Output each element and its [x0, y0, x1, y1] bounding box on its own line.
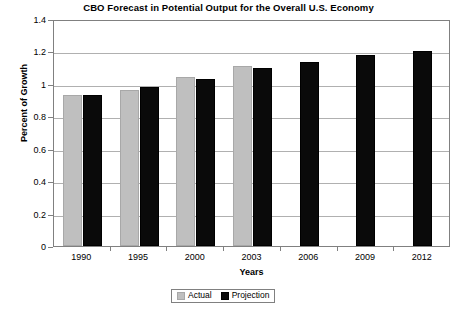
- y-axis-tick-label: 1.4: [6, 16, 46, 25]
- legend-label: Projection: [232, 291, 270, 300]
- y-axis-tick-label: 1.2: [6, 48, 46, 57]
- bar-actual-1995: [120, 90, 139, 246]
- y-axis-tick-label: 0.8: [6, 113, 46, 122]
- legend-swatch-icon: [177, 292, 185, 300]
- bar-projection-2003: [253, 68, 272, 246]
- x-axis-tick-label: 1990: [51, 252, 111, 262]
- bar-group: [111, 21, 168, 246]
- legend-entry-actual: Actual: [177, 291, 212, 300]
- bar-group: [167, 21, 224, 246]
- bar-projection-2006: [300, 62, 319, 246]
- bar-actual-1990: [63, 95, 82, 246]
- x-axis-tick-label: 2006: [278, 252, 338, 262]
- bar-actual-2000: [176, 77, 195, 246]
- y-axis-tick-mark: [48, 247, 53, 248]
- x-axis-tick-mark: [110, 247, 111, 251]
- plot-area: [53, 20, 450, 247]
- bar-group: [281, 21, 338, 246]
- x-axis-tick-mark: [337, 247, 338, 251]
- legend-label: Actual: [188, 291, 212, 300]
- y-axis-tick-label: 0.2: [6, 211, 46, 220]
- x-axis-tick-mark: [223, 247, 224, 251]
- x-axis-title: Years: [53, 267, 450, 277]
- bar-group: [224, 21, 281, 246]
- chart-title: CBO Forecast in Potential Output for the…: [0, 2, 457, 14]
- x-axis-tick-mark: [166, 247, 167, 251]
- legend-swatch-icon: [221, 292, 229, 300]
- x-axis-tick-label: 2003: [222, 252, 282, 262]
- y-axis-tick-label: 0.6: [6, 146, 46, 155]
- x-axis-tick-label: 2000: [165, 252, 225, 262]
- x-axis-tick-label: 2009: [335, 252, 395, 262]
- bar-group: [394, 21, 451, 246]
- bar-projection-2009: [356, 55, 375, 246]
- bar-group: [338, 21, 395, 246]
- bar-actual-2003: [233, 66, 252, 246]
- y-axis-tick-label: 0.4: [6, 178, 46, 187]
- bar-chart: CBO Forecast in Potential Output for the…: [0, 0, 457, 312]
- x-axis-tick-mark: [393, 247, 394, 251]
- x-axis-tick-label: 2012: [392, 252, 452, 262]
- x-axis-tick-label: 1995: [108, 252, 168, 262]
- chart-legend: ActualProjection: [171, 289, 275, 303]
- bar-projection-1990: [83, 95, 102, 246]
- bar-projection-2012: [413, 51, 432, 246]
- bar-projection-1995: [140, 87, 159, 246]
- y-axis-tick-label: 1: [6, 81, 46, 90]
- y-axis-tick-label: 0: [6, 243, 46, 252]
- legend-entry-projection: Projection: [221, 291, 270, 300]
- bar-group: [54, 21, 111, 246]
- x-axis-tick-mark: [280, 247, 281, 251]
- bar-projection-2000: [196, 79, 215, 246]
